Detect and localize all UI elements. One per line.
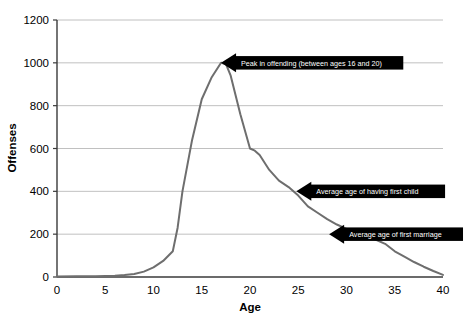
annotation-label: Average age of first marriage bbox=[349, 230, 442, 239]
y-tick-label-1200: 1200 bbox=[23, 14, 49, 26]
y-tick-label-0: 0 bbox=[43, 271, 49, 283]
x-tick-label-25: 25 bbox=[292, 284, 305, 296]
annotation-arrow-head-icon bbox=[296, 182, 311, 201]
offenses-series-line bbox=[57, 63, 443, 277]
y-tick-label-400: 400 bbox=[30, 185, 49, 197]
annotation-first-child: Average age of having first child bbox=[296, 182, 445, 201]
y-axis-title: Offenses bbox=[6, 123, 18, 172]
annotation-arrow-head-icon bbox=[329, 225, 344, 244]
x-tick-label-5: 5 bbox=[102, 284, 108, 296]
y-tick-label-600: 600 bbox=[30, 143, 49, 155]
y-tick-label-200: 200 bbox=[30, 228, 49, 240]
annotation-label: Average age of having first child bbox=[316, 187, 418, 196]
x-tick-label-20: 20 bbox=[244, 284, 257, 296]
annotation-peak-offending: Peak in offending (between ages 16 and 2… bbox=[221, 53, 403, 72]
offenses-by-age-line-chart: 020040060080010001200 0510152025303540 P… bbox=[0, 0, 467, 331]
y-tick-label-800: 800 bbox=[30, 100, 49, 112]
y-axis-tick-labels: 020040060080010001200 bbox=[23, 14, 49, 283]
x-tick-label-35: 35 bbox=[388, 284, 401, 296]
x-tick-label-40: 40 bbox=[437, 284, 450, 296]
x-tick-label-15: 15 bbox=[195, 284, 208, 296]
gridlines-group bbox=[57, 20, 443, 234]
y-tick-label-1000: 1000 bbox=[23, 57, 49, 69]
x-tick-label-30: 30 bbox=[340, 284, 353, 296]
annotation-label: Peak in offending (between ages 16 and 2… bbox=[241, 59, 382, 68]
x-axis-title: Age bbox=[239, 301, 261, 313]
x-axis-tick-labels: 0510152025303540 bbox=[54, 284, 450, 296]
x-tick-label-0: 0 bbox=[54, 284, 60, 296]
chart-container: 020040060080010001200 0510152025303540 P… bbox=[0, 0, 467, 331]
annotation-first-marriage: Average age of first marriage bbox=[329, 225, 463, 244]
x-tick-label-10: 10 bbox=[147, 284, 160, 296]
